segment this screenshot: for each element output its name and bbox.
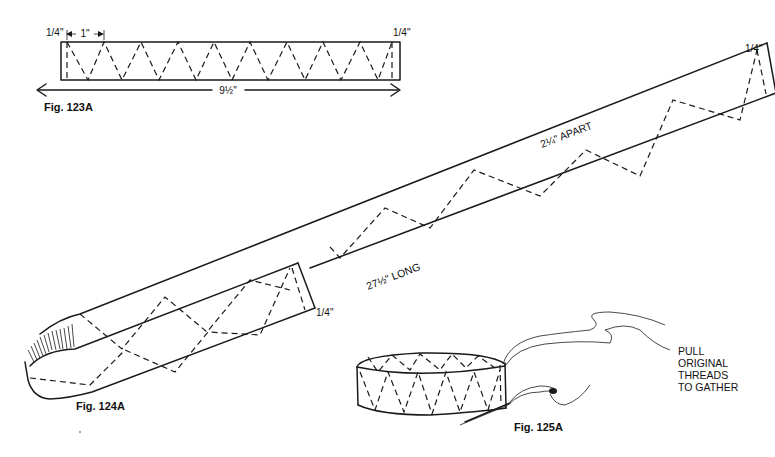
fig-125a-instruction-line-2: ORIGINAL xyxy=(678,357,728,369)
fig-123a-caption: Fig. 123A xyxy=(44,101,93,113)
fig-123a-spacing-label: 1" xyxy=(80,28,90,39)
sewing-diagram: 1" 1/4" 1/4" 9½" Fig. 123A xyxy=(0,0,775,457)
fig-124a-top-seam-label: 1/4" xyxy=(745,43,763,54)
fig-125a-instruction-line-3: THREADS xyxy=(678,369,728,381)
fig-125a-instruction-line-4: TO GATHER xyxy=(678,381,739,393)
fig-123a-strip xyxy=(61,42,400,80)
fig-123a-right-seam-label: 1/4" xyxy=(393,27,411,38)
fig-125a-instruction-line-1: PULL xyxy=(678,345,704,357)
fig-124a-long-label: 27½" LONG xyxy=(364,260,421,292)
fig-125a-gathered-ring xyxy=(357,353,506,415)
fig-124a-end-seam-label: 1/4" xyxy=(316,307,334,318)
fig-124a-caption: Fig. 124A xyxy=(76,400,125,412)
fig-125a-caption: Fig. 125A xyxy=(514,421,563,433)
fig-124a-curl-hatch xyxy=(28,324,74,362)
fig-123a-length-label: 9½" xyxy=(219,85,237,96)
fig-124a-long-strip xyxy=(25,43,775,432)
fig-123a-left-seam-label: 1/4" xyxy=(46,27,64,38)
fig-124a-apart-label: 2¼" APART xyxy=(538,119,594,150)
